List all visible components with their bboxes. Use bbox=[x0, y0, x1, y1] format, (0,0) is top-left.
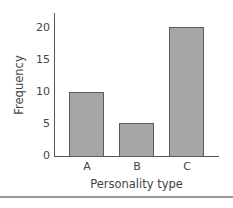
bar-c bbox=[169, 27, 204, 157]
x-tick-label-c: C bbox=[169, 161, 205, 173]
y-tick-label-20: 20 bbox=[30, 22, 50, 34]
bar-chart: 0 5 10 15 20 Frequency A B C Personality… bbox=[0, 0, 233, 208]
y-tick-label-0: 0 bbox=[30, 150, 50, 162]
y-axis-line bbox=[54, 13, 55, 157]
x-axis-title: Personality type bbox=[54, 178, 219, 191]
bar-b bbox=[119, 123, 154, 157]
bar-a bbox=[69, 92, 104, 157]
y-tick-label-15: 15 bbox=[30, 54, 50, 66]
y-tick-label-10: 10 bbox=[30, 86, 50, 98]
x-tick-label-b: B bbox=[119, 161, 155, 173]
bottom-divider bbox=[0, 196, 233, 198]
y-tick-label-5: 5 bbox=[30, 118, 50, 130]
x-tick-label-a: A bbox=[69, 161, 105, 173]
y-axis-title-text: Frequency bbox=[13, 55, 26, 114]
